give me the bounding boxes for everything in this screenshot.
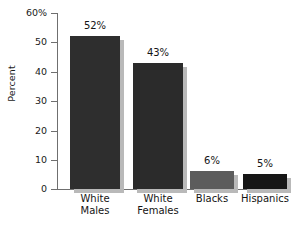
bar-white-males: 52% — [70, 36, 120, 189]
bar-fill — [190, 171, 234, 189]
category-label-white-males: White Males — [62, 193, 128, 217]
bar-value-label: 6% — [204, 156, 220, 166]
bar-chart: Percent 60% 50 40 30 20 10 0 52% 43% 6% … — [0, 0, 299, 225]
bar-value-label: 52% — [84, 21, 106, 31]
bar-value-label: 5% — [257, 159, 273, 169]
category-label-line: Blacks — [186, 193, 238, 205]
y-tick-mark-40 — [51, 72, 58, 73]
category-label-line: White — [62, 193, 128, 205]
y-tick-mark-0 — [51, 189, 58, 190]
bar-fill — [133, 63, 183, 189]
category-label-blacks: Blacks — [186, 193, 238, 205]
y-tick-mark-10 — [51, 160, 58, 161]
bar-fill — [70, 36, 120, 189]
category-label-line: Males — [62, 205, 128, 217]
y-tick-mark-50 — [51, 42, 58, 43]
y-tick-label-40: 40 — [0, 67, 47, 77]
bar-white-females: 43% — [133, 63, 183, 189]
bar-hispanics: 5% — [243, 174, 287, 189]
y-tick-label-50: 50 — [0, 37, 47, 47]
y-tick-mark-20 — [51, 131, 58, 132]
category-label-hispanics: Hispanics — [234, 193, 296, 205]
bar-blacks: 6% — [190, 171, 234, 189]
y-axis-label: Percent — [6, 39, 17, 129]
category-label-line: Hispanics — [234, 193, 296, 205]
y-tick-mark-60 — [51, 13, 58, 14]
bar-fill — [243, 174, 287, 189]
y-tick-label-20: 20 — [0, 126, 47, 136]
y-tick-label-10: 10 — [0, 155, 47, 165]
category-label-line: Females — [123, 205, 193, 217]
y-tick-mark-30 — [51, 101, 58, 102]
y-tick-label-60: 60% — [0, 8, 47, 18]
category-label-white-females: White Females — [123, 193, 193, 217]
category-label-line: White — [123, 193, 193, 205]
bar-value-label: 43% — [147, 48, 169, 58]
y-tick-label-30: 30 — [0, 96, 47, 106]
y-tick-label-0: 0 — [0, 184, 47, 194]
